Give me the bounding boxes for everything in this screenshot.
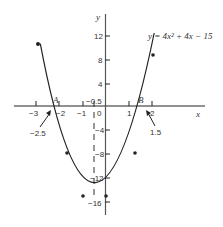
origin-label: 0 bbox=[97, 109, 102, 118]
root-label-a: A bbox=[52, 95, 59, 105]
y-tick-label: −4 bbox=[95, 126, 105, 135]
y-tick-label: −16 bbox=[88, 199, 102, 208]
y-axis-label: y bbox=[95, 12, 100, 22]
x-tick-label: −3 bbox=[29, 109, 39, 118]
root-value-b: 1.5 bbox=[150, 128, 162, 137]
root-label-b: B bbox=[138, 95, 144, 105]
arrow-to-root-a bbox=[40, 113, 50, 127]
equation-label: y = 4x² + 4x − 15 bbox=[147, 31, 213, 41]
x-tick-label: 1 bbox=[127, 109, 132, 118]
x-axis-label: x bbox=[195, 109, 200, 119]
quadratic-graph: y x −3 −2 −1 1 2 0 12 8 4 −4 −8 −12 −16 … bbox=[0, 0, 223, 227]
y-tick-label: 8 bbox=[98, 56, 103, 65]
y-tick-label: −8 bbox=[95, 150, 105, 159]
x-tick-label: 2 bbox=[150, 109, 155, 118]
root-value-a: −2.5 bbox=[30, 129, 46, 138]
symmetry-label: −0.5 bbox=[86, 97, 102, 106]
y-tick-label: −12 bbox=[90, 174, 104, 183]
x-tick-label: −1 bbox=[77, 109, 87, 118]
y-tick-label: 4 bbox=[98, 80, 103, 89]
y-tick-label: 12 bbox=[94, 32, 103, 41]
x-tick-label: −2 bbox=[56, 109, 66, 118]
